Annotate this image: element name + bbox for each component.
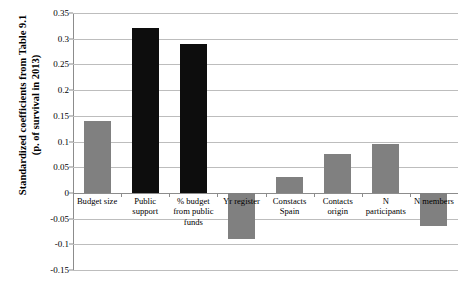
bar-group[interactable]: N members <box>410 13 458 270</box>
x-axis-label-line: Contacts <box>323 196 353 206</box>
x-axis-label-line: Yr register <box>223 196 260 206</box>
gridline <box>73 270 458 271</box>
y-tick-label: -0.15 <box>50 265 69 275</box>
x-axis-label-line: funds <box>184 217 203 227</box>
x-axis-label-line: from public <box>173 206 213 216</box>
y-axis-title: Standardized coefficients from Table 9.1… <box>16 0 42 230</box>
x-axis-label-line: Budget size <box>77 196 117 206</box>
bar-group[interactable]: Nparticipants <box>362 13 410 270</box>
bar-group[interactable]: Yr register <box>217 13 265 270</box>
bar-group[interactable]: % budgetfrom publicfunds <box>169 13 217 270</box>
bar[interactable] <box>180 44 207 193</box>
chart-figure: Standardized coefficients from Table 9.1… <box>0 0 464 287</box>
x-axis-label-line: N <box>383 196 389 206</box>
x-axis-label-line: Spain <box>280 206 300 216</box>
bar-group[interactable]: ConstactsSpain <box>266 13 314 270</box>
bar-group[interactable]: Budget size <box>73 13 121 270</box>
y-tick-label: 0.3 <box>58 34 69 44</box>
bar[interactable] <box>84 121 111 193</box>
x-axis-label-line: participants <box>366 206 406 216</box>
y-tick-label: 0.15 <box>53 111 69 121</box>
y-tick-label: 0.25 <box>53 59 69 69</box>
bar[interactable] <box>324 154 351 193</box>
bar[interactable] <box>276 177 303 192</box>
y-axis-title-line1: Standardized coefficients from Table 9.1 <box>17 15 28 195</box>
bar-series: Budget sizePublicsupport% budgetfrom pub… <box>73 13 458 270</box>
x-axis-label-line: Constacts <box>273 196 306 206</box>
y-tick-label: 0.2 <box>58 85 69 95</box>
y-axis-title-line2: (p. of survival in 2013) <box>30 55 41 156</box>
y-tick-label: 0.1 <box>58 137 69 147</box>
y-tick-label: -0.1 <box>55 239 69 249</box>
x-axis-label-line: support <box>132 206 158 216</box>
x-axis-label-line: origin <box>327 206 348 216</box>
y-tick-label: 0.05 <box>53 162 69 172</box>
x-axis-label-line: % budget <box>177 196 210 206</box>
plot-area: 0.350.30.250.20.150.10.050-0.05-0.1-0.15… <box>73 13 458 270</box>
x-axis-label-line: Public <box>134 196 156 206</box>
x-axis-label: N members <box>404 196 464 207</box>
bar[interactable] <box>132 28 159 192</box>
y-tick-label: -0.05 <box>50 214 69 224</box>
bar[interactable] <box>372 144 399 193</box>
bar-group[interactable]: Contactsorigin <box>314 13 362 270</box>
y-tick-label: 0.35 <box>53 8 69 18</box>
bar-group[interactable]: Publicsupport <box>121 13 169 270</box>
x-axis-label-line: N members <box>414 196 454 206</box>
